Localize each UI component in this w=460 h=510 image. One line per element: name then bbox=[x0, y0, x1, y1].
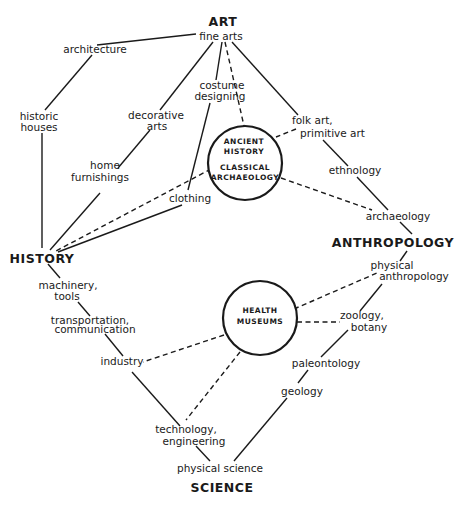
circle-label-health: HEALTH bbox=[242, 306, 277, 315]
edge-technology-physicalscience bbox=[196, 446, 210, 461]
node-home-furnishings-1: home bbox=[90, 159, 120, 171]
hub-science: SCIENCE bbox=[190, 480, 253, 495]
node-machinery-tools-2: tools bbox=[54, 290, 79, 302]
node-folk-art-1: folk art, bbox=[292, 114, 333, 126]
node-industry: industry bbox=[100, 355, 143, 367]
circle-label-museums: MUSEUMS bbox=[237, 317, 284, 326]
node-costume-designing-2: designing bbox=[194, 90, 245, 102]
edge-decorativearts-homefurnishings bbox=[118, 130, 150, 168]
edge-history-machinery bbox=[48, 264, 60, 278]
circle-label-history: HISTORY bbox=[224, 147, 264, 156]
dashed-health-industry bbox=[143, 335, 224, 362]
hub-art: ART bbox=[209, 14, 238, 29]
dashed-folkart-ancient bbox=[276, 129, 296, 137]
edge-geology-physicalscience bbox=[234, 398, 287, 461]
node-archaeology: archaeology bbox=[366, 210, 431, 222]
node-zoology-botany-2: botany bbox=[351, 321, 388, 333]
node-decorative-arts-2: arts bbox=[147, 120, 167, 132]
museum-disciplines-diagram: ANCIENT HISTORY CLASSICAL ARCHAEOLOGY HE… bbox=[0, 0, 460, 510]
node-ethnology: ethnology bbox=[329, 164, 382, 176]
node-technology-engineering-2: engineering bbox=[163, 435, 226, 447]
edge-transportation-industry bbox=[105, 334, 123, 356]
node-paleontology: paleontology bbox=[292, 357, 360, 369]
health-museums-circle: HEALTH MUSEUMS bbox=[223, 281, 297, 355]
dashed-health-physanth bbox=[294, 273, 377, 309]
node-folk-art-2: primitive art bbox=[300, 127, 365, 139]
node-physical-anthropology-2: anthropology bbox=[379, 270, 449, 282]
edge-industry-technology bbox=[132, 372, 180, 426]
edge-folkart-ethnology bbox=[323, 140, 348, 166]
hub-anthropology: ANTHROPOLOGY bbox=[332, 235, 455, 250]
node-transport-comm-2: communication bbox=[54, 323, 135, 335]
node-geology: geology bbox=[281, 385, 323, 397]
node-architecture: architecture bbox=[63, 43, 127, 55]
hub-history: HISTORY bbox=[10, 251, 75, 266]
edge-paleontology-geology bbox=[298, 370, 308, 383]
dashed-health-technology bbox=[186, 352, 240, 420]
edge-clothing-history bbox=[58, 205, 182, 252]
dashed-ancient-archaeology bbox=[281, 178, 372, 210]
edge-physanth-zoology bbox=[360, 284, 382, 311]
edge-zoology-paleontology bbox=[321, 330, 348, 357]
edge-archaeology-anthropology bbox=[400, 222, 412, 234]
circle-label-classical: CLASSICAL bbox=[220, 163, 270, 172]
edge-ethnology-archaeology bbox=[357, 177, 388, 210]
circle-label-archaeology: ARCHAEOLOGY bbox=[211, 173, 280, 182]
node-fine-arts: fine arts bbox=[199, 30, 242, 42]
node-technology-engineering-1: technology, bbox=[155, 423, 217, 435]
circle-label-ancient: ANCIENT bbox=[224, 137, 265, 146]
edge-costume-clothing bbox=[188, 103, 210, 190]
edge-architecture-historichouses bbox=[45, 55, 92, 110]
node-clothing: clothing bbox=[169, 192, 211, 204]
ancient-history-circle: ANCIENT HISTORY CLASSICAL ARCHAEOLOGY bbox=[208, 126, 282, 200]
edge-finearts-costume bbox=[216, 42, 222, 80]
node-home-furnishings-2: furnishings bbox=[71, 171, 129, 183]
node-zoology-botany-1: zoology, bbox=[340, 309, 384, 321]
node-physical-science: physical science bbox=[177, 462, 263, 474]
node-historic-houses-2: houses bbox=[20, 121, 57, 133]
